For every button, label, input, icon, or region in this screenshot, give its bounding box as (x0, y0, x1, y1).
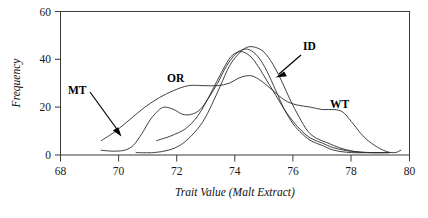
curve-label-mt: MT (68, 84, 87, 96)
y-tick-label-0: 0 (45, 149, 51, 161)
annotation-mt: MT (68, 84, 122, 137)
annotation-wt: WT (330, 98, 350, 110)
y-axis-title: Frequency (10, 58, 23, 109)
id-arrow-line (279, 55, 301, 74)
annotation-or: OR (167, 72, 185, 84)
y-tick-label-20: 20 (40, 101, 52, 113)
y-tick-label-60: 60 (40, 6, 52, 18)
x-tick-label-74: 74 (229, 165, 241, 177)
y-axis-ticks (55, 12, 61, 156)
y-tick-label-40: 40 (40, 53, 52, 65)
x-axis-ticks (61, 155, 410, 162)
curve-wt (156, 52, 389, 153)
x-tick-label-76: 76 (287, 165, 299, 177)
x-tick-label-68: 68 (55, 165, 67, 177)
x-tick-label-72: 72 (171, 165, 183, 177)
x-tick-label-70: 70 (113, 165, 125, 177)
x-axis-title: Trait Value (Malt Extract) (175, 186, 295, 199)
mt-arrow-line (90, 92, 119, 132)
curve-label-wt: WT (330, 98, 350, 110)
x-tick-label-78: 78 (345, 165, 357, 177)
curve-or (101, 76, 401, 153)
curve-label-id: ID (303, 40, 316, 52)
curve-label-or: OR (167, 72, 185, 84)
frequency-distribution-chart: 0 20 40 60 68 70 72 74 76 78 80 Trait Va… (0, 0, 428, 218)
density-curves-group (101, 47, 401, 153)
annotation-id: ID (276, 40, 316, 78)
x-tick-label-80: 80 (404, 165, 416, 177)
